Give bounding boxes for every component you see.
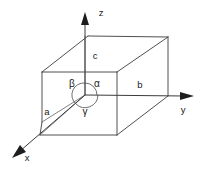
axis-label-y: y [181,104,186,115]
angle-label-beta: β [69,78,75,89]
edge-label-c: c [93,50,98,61]
unit-cell-figure: z y x a b c α β γ [0,0,208,169]
axis-z-arrowhead [81,12,89,25]
edge-top-left [42,36,88,72]
axis-label-z: z [99,7,104,18]
axis-x [12,95,85,158]
cell-bottom-face [40,95,168,135]
angle-label-alpha: α [94,78,100,89]
cell-vertical-edges [42,36,168,135]
cell-top-face [42,36,168,72]
axis-label-x: x [25,152,30,163]
edge-top-right [117,37,168,72]
axis-y [85,92,194,100]
unit-cell-diagram-svg: z y x a b c α β γ [0,0,208,169]
edge-top-back [88,36,168,37]
edge-label-a: a [44,106,50,117]
angle-label-gamma: γ [83,106,88,117]
axis-z [81,12,89,95]
edge-bottom-right [117,96,168,135]
edge-label-b: b [137,79,142,90]
axis-y-line [85,95,185,96]
axis-y-arrowhead [180,92,194,100]
